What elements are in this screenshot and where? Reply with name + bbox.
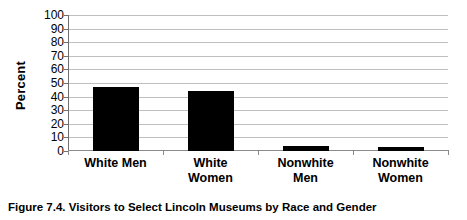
bar xyxy=(378,147,424,151)
x-axis-category-label: NonwhiteMen xyxy=(258,156,353,186)
y-axis-title-text: Percent xyxy=(14,60,29,109)
y-axis-tick-label: 40 xyxy=(51,91,64,103)
y-axis-tick-labels: 0102030405060708090100 xyxy=(34,9,64,151)
x-axis-tickmark xyxy=(448,150,449,155)
y-axis-tick-label: 50 xyxy=(51,77,64,89)
bar-chart: Percent 0102030405060708090100 White Men… xyxy=(0,0,467,196)
x-axis-category-label: WhiteWomen xyxy=(163,156,258,186)
x-axis-category-label-line: Nonwhite xyxy=(258,156,353,171)
y-axis-tick-label: 90 xyxy=(51,23,64,35)
x-axis-category-labels: White MenWhiteWomenNonwhiteMenNonwhiteWo… xyxy=(68,156,448,196)
bar xyxy=(188,91,234,151)
y-axis-title: Percent xyxy=(11,30,31,140)
y-axis-tick-label: 100 xyxy=(44,9,64,21)
y-axis-tick-label: 0 xyxy=(57,145,64,157)
bar-series xyxy=(68,15,448,151)
x-axis-category-label: NonwhiteWomen xyxy=(353,156,448,186)
x-axis-category-label: White Men xyxy=(68,156,163,171)
plot-area xyxy=(68,15,448,151)
x-axis-category-label-line: Women xyxy=(163,171,258,186)
y-axis-tick-label: 80 xyxy=(51,36,64,48)
figure-caption: Figure 7.4. Visitors to Select Lincoln M… xyxy=(8,200,463,214)
x-axis-category-label-line: Men xyxy=(258,171,353,186)
y-axis-tick-label: 60 xyxy=(51,63,64,75)
x-axis-category-label-line: White Men xyxy=(68,156,163,171)
y-axis-tick-label: 30 xyxy=(51,104,64,116)
figure-container: Percent 0102030405060708090100 White Men… xyxy=(0,0,467,220)
y-axis-tick-label: 70 xyxy=(51,50,64,62)
y-axis-tick-label: 20 xyxy=(51,118,64,130)
bar xyxy=(283,146,329,151)
x-axis-category-label-line: White xyxy=(163,156,258,171)
x-axis-category-label-line: Women xyxy=(353,171,448,186)
x-axis-category-label-line: Nonwhite xyxy=(353,156,448,171)
y-axis-tick-label: 10 xyxy=(51,131,64,143)
bar xyxy=(93,87,139,151)
